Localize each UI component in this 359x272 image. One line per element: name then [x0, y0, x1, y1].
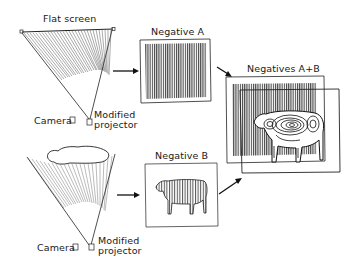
negative-a-panel	[140, 39, 211, 103]
negative-b-panel	[145, 163, 218, 227]
arrow-negative-a-to-ab	[217, 67, 228, 74]
projector-label-top-line2: projector	[94, 120, 138, 130]
projector-icon	[87, 119, 92, 125]
negative-a-label: Negative A	[151, 27, 204, 37]
negatives-ab-label: Negatives A+B	[247, 64, 320, 74]
top-projection-fan	[24, 29, 111, 80]
flat-screen-label: Flat screen	[43, 14, 96, 24]
negative-b-label: Negative B	[155, 151, 208, 161]
negative-a-grating	[145, 43, 207, 99]
negatives-ab-panel	[226, 76, 340, 173]
camera-label-top: Camera	[34, 116, 72, 126]
camera-label-bottom: Camera	[37, 243, 75, 253]
arrow-negative-b-to-ab	[219, 181, 238, 194]
moire-topography-diagram: Flat screen Camera Modified projector Ca…	[0, 0, 359, 272]
cow-silhouette-outline	[47, 146, 108, 164]
diagram-canvas	[0, 0, 359, 272]
projector-label-bottom-line2: projector	[98, 246, 142, 256]
bottom-projection-fan	[28, 156, 112, 211]
projector-icon	[89, 244, 94, 250]
